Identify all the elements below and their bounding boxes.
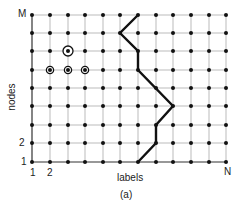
grid-node bbox=[189, 86, 193, 90]
grid-node bbox=[224, 160, 228, 164]
grid-node bbox=[207, 49, 211, 53]
grid-node bbox=[171, 104, 175, 108]
grid-node bbox=[154, 141, 158, 145]
grid-node bbox=[48, 160, 52, 164]
grid-node bbox=[66, 31, 70, 35]
highlighted-node bbox=[48, 68, 52, 72]
grid-node bbox=[118, 13, 122, 17]
grid-node bbox=[154, 49, 158, 53]
grid-node bbox=[171, 68, 175, 72]
grid-node bbox=[30, 13, 34, 17]
grid-node bbox=[224, 31, 228, 35]
grid-node bbox=[224, 123, 228, 127]
grid-node bbox=[66, 123, 70, 127]
grid-node bbox=[83, 123, 87, 127]
grid-node bbox=[154, 160, 158, 164]
grid-node bbox=[30, 31, 34, 35]
grid-node bbox=[101, 49, 105, 53]
grid-node bbox=[189, 13, 193, 17]
grid-node bbox=[83, 141, 87, 145]
y-axis-label: nodes bbox=[7, 83, 17, 110]
highlighted-node bbox=[66, 68, 70, 72]
grid-node bbox=[66, 160, 70, 164]
grid-node bbox=[154, 31, 158, 35]
grid-node bbox=[48, 13, 52, 17]
grid-node bbox=[118, 160, 122, 164]
grid-node bbox=[207, 13, 211, 17]
grid-node bbox=[30, 49, 34, 53]
grid-node bbox=[154, 86, 158, 90]
x-tick-2: 2 bbox=[47, 168, 53, 178]
grid-node bbox=[207, 123, 211, 127]
grid-node bbox=[171, 31, 175, 35]
grid-node bbox=[48, 123, 52, 127]
grid-node bbox=[30, 104, 34, 108]
grid-node bbox=[101, 123, 105, 127]
grid-node bbox=[48, 49, 52, 53]
grid-node bbox=[30, 68, 34, 72]
grid-node bbox=[189, 68, 193, 72]
grid-node bbox=[66, 141, 70, 145]
grid-node bbox=[171, 123, 175, 127]
grid-node bbox=[48, 104, 52, 108]
grid-node bbox=[30, 141, 34, 145]
grid-node bbox=[101, 141, 105, 145]
y-tick-1: 1 bbox=[21, 157, 27, 167]
grid-node bbox=[66, 13, 70, 17]
grid-node bbox=[101, 13, 105, 17]
grid-node bbox=[30, 86, 34, 90]
x-tick-N: N bbox=[224, 167, 231, 177]
grid-node bbox=[189, 104, 193, 108]
grid-node bbox=[118, 104, 122, 108]
grid-node bbox=[224, 13, 228, 17]
grid-node bbox=[101, 86, 105, 90]
grid-node bbox=[189, 160, 193, 164]
grid-node bbox=[83, 31, 87, 35]
highlighted-node bbox=[66, 49, 70, 53]
grid-node bbox=[136, 141, 140, 145]
grid-node bbox=[189, 123, 193, 127]
grid-node bbox=[136, 68, 140, 72]
grid-node bbox=[83, 13, 87, 17]
grid-node bbox=[207, 68, 211, 72]
grid-node bbox=[171, 13, 175, 17]
grid-node bbox=[48, 86, 52, 90]
grid-node bbox=[171, 160, 175, 164]
grid-node bbox=[171, 49, 175, 53]
x-tick-1: 1 bbox=[30, 168, 36, 178]
y-tick-M: M bbox=[18, 9, 26, 19]
grid-node bbox=[136, 104, 140, 108]
grid-node bbox=[207, 104, 211, 108]
grid-node bbox=[48, 141, 52, 145]
grid-node bbox=[48, 31, 52, 35]
grid-node bbox=[118, 49, 122, 53]
highlighted-node bbox=[83, 68, 87, 72]
grid-node bbox=[189, 49, 193, 53]
x-axis-label: labels bbox=[117, 173, 143, 183]
grid-node bbox=[207, 160, 211, 164]
grid-node bbox=[207, 31, 211, 35]
grid-node bbox=[224, 141, 228, 145]
grid-node bbox=[66, 86, 70, 90]
grid-node bbox=[224, 68, 228, 72]
grid-node bbox=[224, 86, 228, 90]
y-tick-2: 2 bbox=[19, 138, 25, 148]
grid-node bbox=[154, 68, 158, 72]
grid-node bbox=[66, 104, 70, 108]
grid-node bbox=[154, 123, 158, 127]
grid-node bbox=[154, 104, 158, 108]
grid-node bbox=[189, 141, 193, 145]
grid-node bbox=[118, 86, 122, 90]
grid-node bbox=[30, 123, 34, 127]
grid-node bbox=[136, 160, 140, 164]
grid-node bbox=[171, 86, 175, 90]
grid-node bbox=[136, 86, 140, 90]
grid-node bbox=[154, 13, 158, 17]
grid-node bbox=[101, 68, 105, 72]
grid-node bbox=[207, 141, 211, 145]
grid-node bbox=[189, 31, 193, 35]
grid-node bbox=[118, 123, 122, 127]
grid-node bbox=[83, 104, 87, 108]
grid-node bbox=[224, 104, 228, 108]
grid-node bbox=[30, 160, 34, 164]
